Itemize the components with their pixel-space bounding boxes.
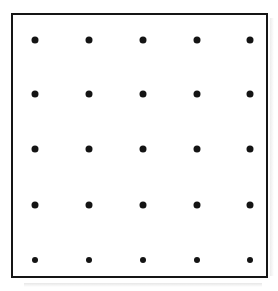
lattice-dot-r1-c4 bbox=[194, 37, 201, 44]
lattice-dot-r5-c1 bbox=[32, 257, 38, 263]
square-border-frame bbox=[11, 13, 268, 278]
lattice-dot-r3-c4 bbox=[194, 146, 201, 153]
scan-shadow-right-edge bbox=[270, 18, 274, 276]
lattice-dot-r3-c2 bbox=[86, 146, 93, 153]
lattice-dot-r2-c2 bbox=[86, 91, 93, 98]
scan-shadow-bottom-edge bbox=[24, 283, 262, 287]
lattice-dot-r1-c1 bbox=[32, 37, 39, 44]
lattice-dot-r4-c4 bbox=[194, 202, 201, 209]
lattice-dot-r2-c1 bbox=[32, 91, 39, 98]
lattice-dot-r5-c3 bbox=[140, 257, 146, 263]
lattice-dot-r4-c2 bbox=[86, 202, 93, 209]
figure-canvas bbox=[0, 0, 278, 291]
lattice-dot-r2-c5 bbox=[247, 91, 254, 98]
lattice-dot-r2-c4 bbox=[194, 91, 201, 98]
lattice-dot-r5-c5 bbox=[247, 257, 253, 263]
lattice-dot-r2-c3 bbox=[140, 91, 147, 98]
lattice-dot-r4-c1 bbox=[32, 202, 39, 209]
lattice-dot-r1-c5 bbox=[247, 37, 254, 44]
lattice-dot-r4-c3 bbox=[140, 202, 147, 209]
lattice-dot-r5-c4 bbox=[194, 257, 200, 263]
dot-lattice-layer bbox=[13, 15, 266, 276]
lattice-dot-r1-c3 bbox=[140, 37, 147, 44]
lattice-dot-r3-c5 bbox=[247, 146, 254, 153]
lattice-dot-r1-c2 bbox=[86, 37, 93, 44]
lattice-dot-r3-c1 bbox=[32, 146, 39, 153]
lattice-dot-r4-c5 bbox=[247, 202, 254, 209]
lattice-dot-r3-c3 bbox=[140, 146, 147, 153]
lattice-dot-r5-c2 bbox=[86, 257, 92, 263]
